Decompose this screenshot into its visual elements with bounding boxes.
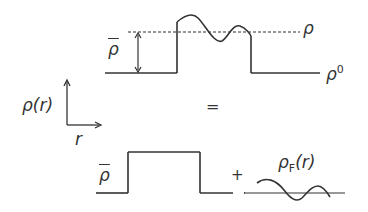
top-wavy-density: [177, 15, 251, 41]
axis-label-r: r: [75, 131, 82, 148]
label-rhobar-bottom: ρ: [99, 167, 110, 184]
label-rho: ρ: [303, 20, 314, 37]
label-rho-f-base: ρ: [278, 152, 289, 172]
label-rho-f-r: ρF(r): [278, 154, 315, 174]
axis-label-rho-r: ρ(r): [22, 97, 53, 114]
density-decomposition-diagram: ρ ρ0 ρ ρ(r) r = ρ + ρF(r): [0, 0, 368, 212]
label-rho0-base: ρ: [326, 64, 337, 84]
equals-sign: =: [206, 99, 219, 115]
label-rho-f-arg: (r): [295, 152, 315, 172]
fluctuation-wave: [257, 179, 330, 200]
label-rho0-sup: 0: [337, 63, 344, 76]
plus-sign: +: [231, 168, 244, 183]
label-rho0: ρ0: [326, 64, 344, 83]
label-rhobar-top: ρ: [108, 41, 119, 58]
